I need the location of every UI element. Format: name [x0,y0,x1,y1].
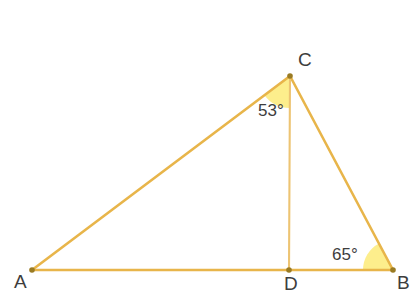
geometry-canvas: A B C D 53° 65° [0,0,419,294]
angle-label-DBC: 65° [332,245,358,264]
geometry-diagram: A B C D 53° 65° [0,0,419,294]
segment-CB [290,76,393,270]
vertex-label-D: D [284,273,298,294]
vertex-dot-D [286,267,292,273]
angle-wedge-at-B [363,244,393,271]
vertex-dot-A [29,267,35,273]
segment-CD [289,76,290,270]
vertex-label-A: A [14,271,27,292]
vertex-label-C: C [298,49,312,70]
segment-AC [32,76,290,270]
vertex-dot-C [287,73,293,79]
vertex-dot-B [390,267,396,273]
angle-label-ACD: 53° [258,101,284,120]
vertex-label-B: B [397,272,410,293]
